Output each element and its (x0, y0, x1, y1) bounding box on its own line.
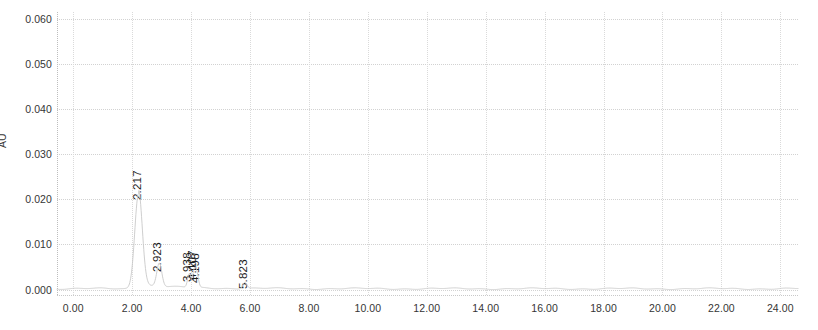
trace-path (57, 190, 798, 289)
chromatogram-chart: AU 2.2172.9233.9384.1074.1985.823 0.0000… (0, 0, 818, 330)
chromatogram-trace (0, 0, 818, 330)
